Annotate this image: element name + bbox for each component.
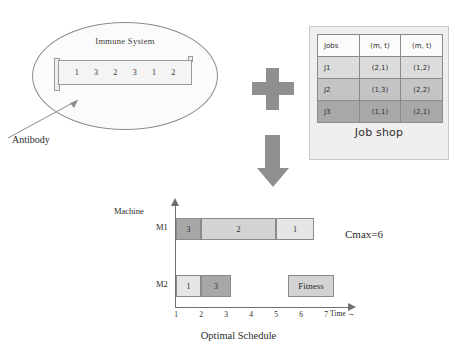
plus-icon-vertical-bar — [266, 68, 279, 110]
antibody-label: Antibody — [12, 134, 50, 145]
y-axis-arrowhead — [171, 198, 179, 206]
x-tick-6: 6 — [294, 310, 308, 319]
table-cell-op1: (2,1) — [359, 57, 401, 79]
table-cell-op1: (1,1) — [359, 101, 401, 123]
job-shop-panel: Jobs (m, t) (m, t) J1 (2,1) (1,2) J2 (1,… — [309, 26, 449, 160]
x-axis-label: Time → — [330, 309, 355, 318]
down-arrow-head — [257, 168, 289, 187]
table-header-op2: (m, t) — [401, 35, 443, 57]
antibody-gene: 1 — [67, 68, 86, 77]
table-cell-job: J2 — [318, 79, 360, 101]
gantt-block-m2-job3: 3 — [201, 275, 231, 297]
x-tick-5: 5 — [269, 310, 283, 319]
antibody-chromosome: 1 3 2 3 1 2 — [58, 60, 192, 85]
table-row: J1 (2,1) (1,2) — [318, 57, 443, 79]
antibody-gene: 3 — [125, 68, 144, 77]
gantt-block-m1-job3: 3 — [176, 218, 201, 240]
cmax-annotation: Cmax=6 — [345, 228, 383, 240]
table-row: J2 (1,3) (2,2) — [318, 79, 443, 101]
y-axis-label: Machine — [114, 206, 144, 216]
x-tick-2: 2 — [194, 310, 208, 319]
x-tick-3: 3 — [219, 310, 233, 319]
antibody-gene: 2 — [106, 68, 125, 77]
gantt-block-m1-job2: 2 — [201, 218, 276, 240]
x-tick-1: 1 — [169, 310, 183, 319]
x-tick-4: 4 — [244, 310, 258, 319]
gantt-block-fitness: Fitness — [288, 275, 334, 297]
immune-system-title: Immune System — [32, 36, 218, 46]
figure-caption: Optimal Schedule — [0, 330, 457, 341]
antibody-gene: 3 — [86, 68, 105, 77]
job-shop-caption: Job shop — [317, 126, 441, 139]
down-arrow-shaft — [265, 135, 280, 169]
x-axis-line — [175, 307, 350, 308]
antibody-gene: 1 — [144, 68, 163, 77]
table-header-jobs: Jobs — [318, 35, 360, 57]
machine-row-label-m2: M2 — [156, 279, 168, 289]
table-cell-job: J3 — [318, 101, 360, 123]
table-header-row: Jobs (m, t) (m, t) — [318, 35, 443, 57]
gantt-block-m2-job1: 1 — [176, 275, 201, 297]
table-cell-op1: (1,3) — [359, 79, 401, 101]
antibody-gene: 2 — [164, 68, 183, 77]
down-arrow-icon — [252, 135, 294, 187]
table-header-op1: (m, t) — [359, 35, 401, 57]
table-cell-op2: (1,2) — [401, 57, 443, 79]
gantt-block-m1-job1: 1 — [276, 218, 314, 240]
plus-icon — [252, 68, 294, 110]
table-cell-job: J1 — [318, 57, 360, 79]
machine-row-label-m1: M1 — [156, 222, 168, 232]
table-cell-op2: (2,2) — [401, 79, 443, 101]
table-row: J3 (1,1) (2,1) — [318, 101, 443, 123]
job-shop-table: Jobs (m, t) (m, t) J1 (2,1) (1,2) J2 (1,… — [317, 34, 443, 123]
gantt-chart: Machine M1 M2 3 2 1 1 3 Fitness 1 2 3 4 … — [112, 196, 362, 316]
table-cell-op2: (2,1) — [401, 101, 443, 123]
